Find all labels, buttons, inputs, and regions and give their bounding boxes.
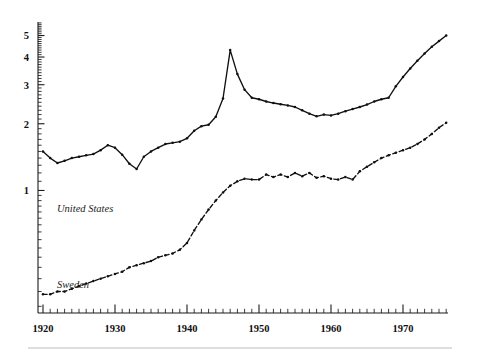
data-point-united-states	[99, 149, 102, 152]
data-point-united-states	[135, 168, 138, 171]
data-point-sweden	[416, 143, 419, 146]
data-point-united-states	[92, 153, 95, 156]
data-point-sweden	[279, 173, 282, 176]
data-point-sweden	[251, 178, 254, 181]
x-tick-label: 1970	[393, 323, 414, 334]
y-tick-label: 1	[24, 185, 29, 196]
data-point-united-states	[56, 162, 59, 165]
tick-group	[38, 23, 446, 313]
data-point-united-states	[229, 49, 232, 52]
axis-group	[38, 22, 448, 313]
data-point-united-states	[287, 104, 290, 107]
data-point-sweden	[222, 191, 225, 194]
data-point-united-states	[402, 76, 405, 79]
series-group	[43, 36, 446, 295]
data-point-united-states	[222, 97, 225, 100]
data-point-united-states	[308, 112, 311, 115]
data-point-sweden	[164, 254, 167, 257]
data-point-united-states	[445, 34, 448, 37]
data-point-united-states	[351, 108, 354, 111]
x-tick-label: 1950	[249, 323, 270, 334]
data-point-united-states	[157, 146, 160, 149]
data-point-united-states	[207, 123, 210, 126]
data-point-united-states	[416, 59, 419, 62]
data-point-sweden	[359, 170, 362, 173]
x-tick-label: 1920	[33, 323, 54, 334]
data-point-united-states	[359, 106, 362, 109]
data-point-united-states	[143, 155, 146, 158]
data-point-sweden	[402, 149, 405, 152]
data-point-united-states	[272, 102, 275, 105]
data-point-united-states	[409, 67, 412, 70]
series-line-united-states	[43, 36, 446, 169]
data-point-sweden	[236, 180, 239, 183]
data-point-united-states	[251, 97, 254, 100]
data-point-united-states	[107, 144, 110, 147]
data-point-united-states	[337, 112, 340, 115]
x-tick-label: 1960	[321, 323, 342, 334]
data-point-united-states	[193, 129, 196, 132]
data-point-united-states	[42, 150, 45, 153]
data-point-sweden	[49, 293, 52, 296]
x-tick-label: 1940	[177, 323, 198, 334]
data-point-sweden	[287, 176, 290, 179]
data-point-united-states	[179, 140, 182, 143]
y-tick-label: 4	[24, 52, 30, 63]
data-point-sweden	[438, 126, 441, 128]
y-tick-label: 2	[24, 119, 29, 130]
data-point-sweden	[445, 122, 448, 125]
data-point-sweden	[135, 264, 138, 267]
data-point-united-states	[215, 116, 218, 119]
data-point-sweden	[99, 277, 102, 280]
data-point-united-states	[387, 97, 390, 100]
marker-group	[42, 34, 448, 295]
data-point-sweden	[143, 262, 146, 265]
data-point-united-states	[265, 100, 268, 103]
data-point-sweden	[171, 252, 174, 255]
data-point-united-states	[164, 143, 167, 146]
data-point-sweden	[315, 177, 318, 180]
data-point-united-states	[438, 40, 441, 43]
data-point-united-states	[171, 142, 174, 145]
data-point-sweden	[243, 177, 246, 180]
data-point-united-states	[294, 106, 297, 109]
data-point-united-states	[344, 110, 347, 113]
data-point-united-states	[373, 100, 376, 103]
data-point-united-states	[431, 46, 434, 49]
data-point-united-states	[128, 162, 131, 165]
data-point-sweden	[330, 177, 333, 180]
data-point-sweden	[373, 161, 376, 164]
data-point-united-states	[315, 115, 318, 118]
data-point-united-states	[49, 157, 52, 160]
data-point-united-states	[200, 125, 203, 128]
data-point-united-states	[236, 73, 239, 76]
data-point-sweden	[92, 280, 95, 283]
data-point-sweden	[272, 176, 275, 179]
data-point-united-states	[366, 103, 369, 106]
data-point-sweden	[395, 151, 398, 154]
chart-figure: 12345192019301940195019601970 United Sta…	[0, 0, 480, 356]
data-point-united-states	[114, 146, 117, 149]
data-point-sweden	[179, 249, 182, 252]
data-point-sweden	[107, 275, 110, 278]
data-point-sweden	[186, 242, 189, 245]
data-point-sweden	[301, 175, 304, 178]
data-point-united-states	[423, 52, 426, 55]
data-point-united-states	[71, 157, 74, 160]
y-tick-label: 5	[24, 30, 29, 41]
data-point-sweden	[150, 260, 153, 263]
data-point-united-states	[78, 155, 81, 158]
data-point-sweden	[380, 157, 383, 160]
data-point-sweden	[42, 293, 45, 296]
data-point-sweden	[423, 138, 426, 141]
data-point-united-states	[279, 103, 282, 106]
series-label-sweden: Sweden	[57, 279, 89, 290]
data-point-sweden	[63, 290, 66, 293]
data-point-sweden	[157, 256, 160, 259]
data-point-sweden	[56, 290, 59, 293]
data-point-sweden	[308, 172, 311, 175]
data-point-sweden	[207, 208, 210, 211]
data-point-united-states	[301, 109, 304, 112]
data-point-sweden	[128, 266, 131, 269]
data-point-sweden	[229, 185, 232, 188]
